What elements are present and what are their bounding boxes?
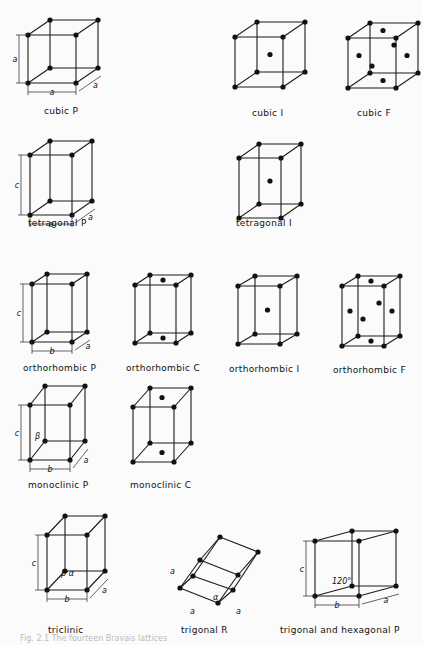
lattice-triclinic: cbaβ α: [20, 520, 130, 620]
svg-text:c: c: [15, 429, 20, 438]
lattice-label: monoclinic P: [28, 480, 88, 490]
svg-text:a: a: [13, 55, 18, 64]
svg-text:b: b: [47, 465, 52, 474]
svg-text:a: a: [93, 81, 98, 90]
svg-text:a: a: [50, 88, 55, 97]
lattice-label: cubic P: [44, 106, 78, 116]
lattice-label: orthorhombic P: [23, 363, 96, 373]
lattice-label: tetragonal P: [28, 218, 87, 228]
lattice-trigonal-and-hexagonal-p: cba120°: [300, 525, 420, 625]
lattice-label: orthorhombic I: [229, 364, 299, 374]
lattice-label: trigonal R: [181, 625, 228, 635]
svg-text:b: b: [49, 347, 54, 356]
lattice-trigonal-r: aaaα: [160, 510, 290, 620]
lattice-cubic-p: aaa: [0, 0, 140, 110]
lattice-monoclinic-c: [125, 385, 215, 485]
svg-text:120°: 120°: [332, 577, 351, 586]
svg-text:a: a: [236, 607, 241, 616]
svg-text:a: a: [88, 213, 93, 222]
lattice-monoclinic-p: cbaβ: [0, 385, 110, 485]
svg-text:b: b: [334, 601, 339, 610]
svg-text:c: c: [17, 309, 22, 318]
lattice-label: orthorhombic C: [126, 363, 200, 373]
lattice-cubic-f: [330, 0, 423, 100]
svg-text:β α: β α: [60, 569, 75, 578]
lattice-cubic-i: [220, 0, 320, 100]
svg-text:a: a: [190, 607, 195, 616]
svg-text:c: c: [32, 559, 37, 568]
lattice-label: monoclinic C: [130, 480, 191, 490]
svg-text:b: b: [64, 595, 69, 604]
svg-text:a: a: [86, 342, 91, 351]
svg-text:a: a: [84, 456, 89, 465]
lattice-label: trigonal and hexagonal P: [280, 625, 400, 635]
lattice-orthorhombic-p: cba: [0, 270, 110, 370]
svg-text:β: β: [34, 432, 40, 441]
svg-text:c: c: [15, 181, 20, 190]
svg-text:α: α: [213, 593, 219, 602]
lattice-orthorhombic-c: [120, 270, 220, 370]
figure-caption: Fig. 2.1 The fourteen Bravais lattices: [20, 634, 167, 643]
svg-text:a: a: [170, 567, 175, 576]
lattice-label: cubic F: [357, 108, 391, 118]
svg-text:c: c: [300, 565, 305, 574]
lattice-label: triclinic: [48, 625, 84, 635]
lattice-label: orthorhombic F: [333, 365, 406, 375]
lattice-orthorhombic-f: [330, 270, 423, 370]
lattice-tetragonal-p: caa: [0, 140, 140, 250]
lattice-tetragonal-i: [230, 130, 330, 230]
lattice-label: cubic I: [252, 108, 283, 118]
svg-text:a: a: [384, 596, 389, 605]
lattice-label: tetragonal I: [236, 218, 292, 228]
lattice-orthorhombic-i: [225, 270, 325, 370]
svg-text:a: a: [102, 586, 107, 595]
